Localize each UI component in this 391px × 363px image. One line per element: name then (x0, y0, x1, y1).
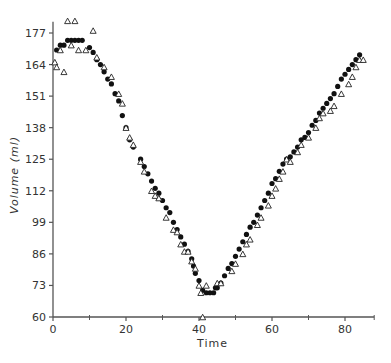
data-point-triangle (141, 169, 147, 175)
data-point-triangle (61, 69, 67, 75)
y-tick-label: 151 (25, 90, 46, 103)
y-tick-label: 99 (32, 216, 46, 229)
data-point-circle (120, 113, 125, 118)
data-point-circle (167, 210, 172, 215)
x-tick-label: 40 (192, 323, 206, 336)
data-point-circle (251, 220, 256, 225)
data-point-circle (328, 96, 333, 101)
data-point-circle (87, 45, 92, 50)
data-point-triangle (203, 283, 209, 289)
data-point-circle (222, 273, 227, 278)
y-tick-label: 60 (32, 311, 46, 324)
data-point-circle (153, 186, 158, 191)
x-tick-label: 60 (265, 323, 279, 336)
data-point-circle (262, 198, 267, 203)
x-tick-label: 0 (50, 323, 57, 336)
x-axis: 020406080 (50, 315, 375, 336)
data-point-circle (211, 290, 216, 295)
data-point-circle (237, 246, 242, 251)
data-point-triangle (127, 135, 133, 141)
data-point-triangle (273, 186, 279, 192)
data-point-triangle (298, 142, 304, 148)
data-point-triangle (130, 142, 136, 148)
data-point-circle (240, 239, 245, 244)
data-point-triangle (163, 215, 169, 221)
data-point-circle (233, 254, 238, 259)
data-point-triangle (331, 103, 337, 109)
data-point-circle (226, 266, 231, 271)
data-point-circle (310, 123, 315, 128)
data-point-triangle (68, 42, 74, 48)
y-tick-label: 73 (32, 279, 46, 292)
y-tick-label: 125 (25, 153, 46, 166)
data-point-triangle (94, 55, 100, 61)
data-point-triangle (247, 237, 253, 243)
data-point-triangle (338, 91, 344, 97)
data-point-circle (91, 50, 96, 55)
x-tick-label: 80 (338, 323, 352, 336)
y-axis-title: Volume (ml) (8, 136, 21, 214)
data-point-triangle (65, 18, 71, 24)
x-tick-label: 20 (119, 323, 133, 336)
y-tick-label: 86 (32, 248, 46, 261)
data-point-circle (335, 84, 340, 89)
data-point-circle (244, 232, 249, 237)
chart-canvas: 60738699112125138151164177 020406080 Tim… (0, 0, 391, 363)
data-point-circle (98, 62, 103, 67)
data-point-circle (258, 205, 263, 210)
data-point-circle (116, 98, 121, 103)
data-point-circle (80, 38, 85, 43)
data-point-circle (266, 191, 271, 196)
data-point-circle (248, 225, 253, 230)
data-point-triangle (90, 28, 96, 34)
data-point-circle (109, 81, 114, 86)
data-point-triangle (349, 74, 355, 80)
data-point-triangle (72, 18, 78, 24)
data-point-circle (342, 72, 347, 77)
data-point-circle (324, 101, 329, 106)
data-point-circle (164, 205, 169, 210)
x-axis-title: Time (196, 337, 228, 350)
data-point-circle (61, 43, 66, 48)
series-filled-circles (54, 38, 362, 296)
y-tick-label: 138 (25, 122, 46, 135)
data-point-circle (350, 62, 355, 67)
data-point-triangle (196, 283, 202, 289)
data-point-circle (346, 67, 351, 72)
data-point-circle (171, 220, 176, 225)
data-point-circle (255, 212, 260, 217)
data-point-circle (149, 178, 154, 183)
data-point-triangle (346, 81, 352, 87)
data-point-circle (269, 181, 274, 186)
y-tick-label: 112 (25, 185, 46, 198)
y-tick-label: 164 (25, 59, 46, 72)
data-point-triangle (108, 74, 114, 80)
data-point-circle (339, 77, 344, 82)
data-point-triangle (240, 251, 246, 257)
y-axis: 60738699112125138151164177 (25, 22, 53, 324)
data-point-triangle (265, 203, 271, 209)
y-tick-label: 177 (25, 27, 46, 40)
data-point-triangle (76, 47, 82, 53)
data-point-circle (331, 91, 336, 96)
